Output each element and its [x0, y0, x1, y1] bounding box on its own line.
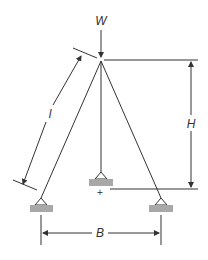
right-leg [101, 61, 161, 198]
height-label: H [187, 117, 196, 131]
height-dimension [104, 60, 198, 189]
origin-mark: + [97, 187, 103, 198]
leg-length-dimension [13, 48, 97, 190]
center-support [89, 172, 113, 186]
tripod-frame-diagram: W + H l B [0, 0, 208, 260]
leg-length-label: l [49, 107, 52, 121]
right-support [149, 198, 173, 212]
base-width-label: B [96, 226, 104, 240]
left-support [30, 198, 53, 212]
left-leg [41, 61, 101, 198]
load-label: W [95, 14, 108, 28]
